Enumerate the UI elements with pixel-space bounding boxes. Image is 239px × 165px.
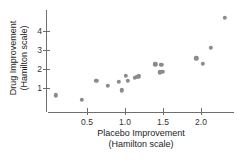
x-axis-tick-label: 1.0 xyxy=(119,117,131,127)
data-point xyxy=(209,46,213,50)
data-point xyxy=(200,61,204,65)
data-point xyxy=(160,70,164,74)
y-axis-tick xyxy=(43,31,50,32)
x-axis-tick-label: 2.0 xyxy=(195,117,207,127)
data-point xyxy=(120,88,124,92)
y-axis-title-line2: (Hamilton scale) xyxy=(19,0,30,118)
y-axis-title-line1: Drug Improvement xyxy=(8,21,18,96)
data-point xyxy=(136,74,140,78)
data-point xyxy=(105,84,109,88)
y-axis-title: Drug Improvement (Hamilton scale) xyxy=(8,0,30,118)
data-point xyxy=(94,79,98,83)
x-axis-tick xyxy=(125,108,126,115)
y-axis-tick xyxy=(43,88,50,89)
x-axis-tick xyxy=(163,108,164,115)
data-point xyxy=(79,98,83,102)
x-axis-title-line1: Placebo Improvement xyxy=(97,128,185,138)
y-axis-tick-label: 4 xyxy=(33,26,42,36)
data-point xyxy=(194,56,198,60)
y-axis-line xyxy=(46,10,47,112)
x-axis-tick-label: 0.5 xyxy=(81,117,93,127)
data-point xyxy=(126,79,130,83)
data-point xyxy=(117,79,121,83)
data-point xyxy=(222,15,226,19)
x-axis-title-line2: (Hamilton scale) xyxy=(48,139,234,150)
data-point xyxy=(153,62,157,66)
plot-area: 0.51.01.52.01234 Placebo Improvement (Ha… xyxy=(0,0,239,165)
x-axis-tick xyxy=(87,108,88,115)
x-axis-title: Placebo Improvement (Hamilton scale) xyxy=(48,128,234,150)
y-axis-tick-label: 1 xyxy=(33,83,42,93)
data-point xyxy=(54,93,58,97)
y-axis-tick-label: 2 xyxy=(33,64,42,74)
y-axis-tick xyxy=(43,50,50,51)
y-axis-tick-label: 3 xyxy=(33,45,42,55)
x-axis-tick xyxy=(201,108,202,115)
data-point xyxy=(159,63,163,67)
x-axis-line xyxy=(48,112,234,113)
scatter-plot-figure: 0.51.01.52.01234 Placebo Improvement (Ha… xyxy=(0,0,239,165)
x-axis-tick-label: 1.5 xyxy=(157,117,169,127)
y-axis-tick xyxy=(43,69,50,70)
data-point xyxy=(124,73,128,77)
